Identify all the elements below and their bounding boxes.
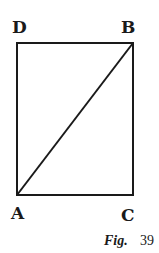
caption-number: 39 (140, 233, 154, 248)
geometry-figure: D B A C Fig. 39 (0, 0, 159, 253)
label-d: D (12, 17, 27, 37)
diagonal-ab (17, 43, 133, 195)
caption-prefix: Fig. (103, 233, 128, 248)
label-b: B (121, 17, 135, 37)
label-a: A (10, 203, 25, 223)
label-c: C (121, 205, 135, 225)
